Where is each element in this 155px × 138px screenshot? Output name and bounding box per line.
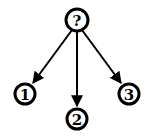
tree-diagram: ? 1 2 3 (0, 0, 155, 138)
child-node-3: 3 (119, 84, 139, 104)
edge-root-to-3 (82, 30, 121, 83)
root-node: ? (66, 9, 88, 31)
child-node-3-label: 3 (124, 86, 134, 104)
edge-root-to-1 (33, 30, 72, 83)
root-node-label: ? (73, 12, 82, 30)
child-node-2: 2 (67, 109, 87, 129)
child-node-1: 1 (15, 84, 35, 104)
child-node-2-label: 2 (72, 111, 82, 129)
child-node-1-label: 1 (20, 86, 30, 104)
